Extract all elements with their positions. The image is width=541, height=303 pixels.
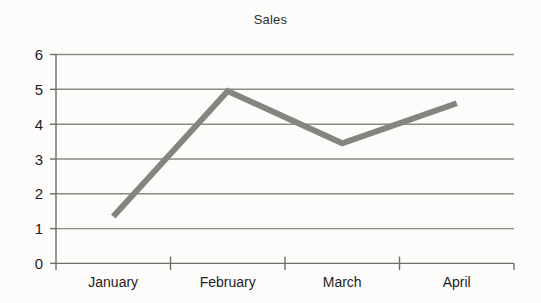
y-tick-label-2: 2 (35, 185, 43, 202)
y-axis-tick-labels: 6 5 4 3 2 1 0 (35, 46, 43, 272)
x-category-label-january: January (88, 274, 138, 290)
x-category-label-february: February (200, 274, 256, 290)
y-tick-label-4: 4 (35, 116, 43, 133)
y-tick-label-6: 6 (35, 46, 43, 63)
x-category-label-april: April (443, 274, 471, 290)
x-category-label-march: March (323, 274, 362, 290)
x-axis-category-labels: January February March April (88, 274, 470, 290)
y-tick-label-1: 1 (35, 220, 43, 237)
chart-container: Sales (0, 0, 541, 303)
y-tick-label-0: 0 (35, 255, 43, 272)
y-tick-label-3: 3 (35, 151, 43, 168)
y-tick-label-5: 5 (35, 81, 43, 98)
y-tick-marks-group (50, 55, 56, 264)
line-chart-plot: 6 5 4 3 2 1 0 January February March Apr… (0, 0, 541, 303)
data-series-line-sales (113, 91, 457, 216)
